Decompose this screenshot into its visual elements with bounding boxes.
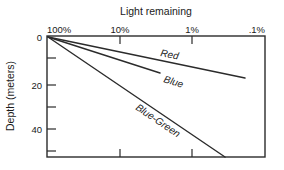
series-label-blue: Blue: [162, 73, 185, 89]
y-axis-title: Depth (meters): [4, 61, 16, 131]
chart-canvas: Light remaining 100% 10% 1% .1% Depth (m…: [0, 0, 284, 170]
chart-title: Light remaining: [120, 5, 192, 17]
y-tick-label-40: 40: [31, 124, 42, 135]
x-tick-label-100: 100%: [47, 24, 72, 35]
series-label-red: Red: [160, 47, 181, 61]
y-tick-label-0: 0: [37, 32, 42, 43]
series-label-blue-green: Blue-Green: [134, 102, 183, 140]
y-tick-label-20: 20: [31, 80, 42, 91]
series-line-blue: [48, 37, 160, 73]
x-tick-label-point1: .1%: [249, 24, 266, 35]
plot-frame: [47, 36, 265, 157]
light-attenuation-chart: Light remaining 100% 10% 1% .1% Depth (m…: [0, 0, 284, 170]
x-tick-label-1: 1%: [185, 24, 199, 35]
x-tick-label-10: 10%: [110, 24, 130, 35]
